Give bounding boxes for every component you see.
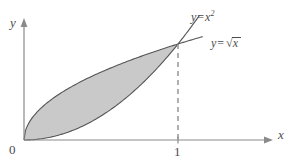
curve-label-sqrt: y=√x [211, 37, 238, 49]
radical-overbar [232, 37, 241, 38]
radical-sign-icon: √ [226, 36, 233, 50]
plot-svg [0, 0, 291, 163]
y-axis-label: y [10, 16, 16, 29]
sqrt-label-equals: = [216, 36, 225, 50]
y-axis-arrowhead [21, 18, 28, 27]
sqrt-label-radical: √x [225, 37, 238, 49]
x-axis-label: x [278, 128, 284, 141]
curve-label-parabola: y=x2 [191, 10, 214, 23]
parabola-label-equals: = [196, 10, 205, 24]
figure-canvas: y x 0 1 y=x2 y=√x [0, 0, 291, 163]
x-axis-arrowhead [264, 137, 273, 144]
parabola-label-exponent: 2 [210, 9, 214, 18]
sqrt-label-radicand: x [233, 36, 238, 50]
shaded-region [24, 44, 178, 140]
x-tick-label-1: 1 [174, 145, 181, 158]
origin-label: 0 [9, 143, 16, 156]
